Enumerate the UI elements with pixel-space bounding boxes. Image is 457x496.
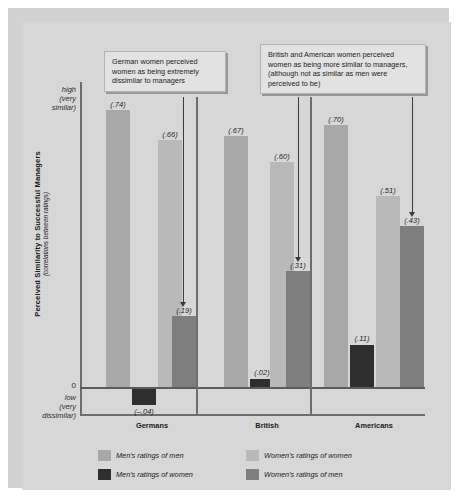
bar-label-americans-mens-ratings-of-men: (.70) bbox=[318, 115, 354, 124]
bar-americans-mens-ratings-of-men bbox=[324, 125, 348, 387]
x-axis-category-germans: Germans bbox=[112, 421, 192, 430]
annotation-callout-german-women: German women perceived women as being ex… bbox=[104, 51, 226, 92]
legend-swatch-mens-ratings-of-men bbox=[98, 450, 111, 461]
annotation-arrow-line-1 bbox=[183, 97, 184, 303]
bar-label-americans-mens-ratings-of-women: (.11) bbox=[344, 334, 380, 343]
annotation-callout-british-american-women: British and American women perceived wom… bbox=[260, 44, 426, 94]
bar-label-americans-womens-ratings-of-men: (.43) bbox=[394, 216, 430, 225]
legend-item-womens-ratings-of-women: Women's ratings of women bbox=[246, 450, 352, 461]
bar-label-british-womens-ratings-of-men: (.31) bbox=[280, 261, 316, 270]
y-axis-high-label: high (very similar) bbox=[38, 85, 76, 112]
bar-germans-mens-ratings-of-women bbox=[132, 389, 156, 405]
bar-germans-mens-ratings-of-men bbox=[106, 110, 130, 387]
bar-label-british-mens-ratings-of-men: (.67) bbox=[218, 126, 254, 135]
y-axis-low-label: low (very dissimilar) bbox=[28, 393, 76, 420]
group-separator-1 bbox=[196, 97, 198, 414]
legend-item-womens-ratings-of-men: Women's ratings of men bbox=[246, 469, 342, 480]
bar-americans-womens-ratings-of-men bbox=[400, 226, 424, 387]
chart-panel: high (very similar) 0 low (very dissimil… bbox=[22, 22, 451, 490]
chart-figure: high (very similar) 0 low (very dissimil… bbox=[0, 0, 457, 496]
figure-plate: high (very similar) 0 low (very dissimil… bbox=[8, 8, 449, 488]
bar-americans-mens-ratings-of-women bbox=[350, 345, 374, 387]
y-axis-high-line3: similar) bbox=[38, 103, 76, 112]
annotation-arrow-head-1 bbox=[180, 302, 186, 307]
annotation-arrow-head-2a bbox=[295, 257, 301, 262]
legend-item-mens-ratings-of-women: Men's ratings of women bbox=[98, 469, 193, 480]
y-axis-low-line2: (very bbox=[28, 402, 76, 411]
chart-legend: Men's ratings of men Men's ratings of wo… bbox=[98, 448, 418, 490]
bar-germans-womens-ratings-of-men bbox=[172, 316, 196, 387]
y-axis-high-line1: high bbox=[38, 85, 76, 94]
x-axis-category-americans: Americans bbox=[334, 421, 414, 430]
bar-british-mens-ratings-of-men bbox=[224, 136, 248, 387]
bar-label-germans-mens-ratings-of-women: (–.04) bbox=[126, 407, 162, 416]
legend-label-mens-ratings-of-women: Men's ratings of women bbox=[116, 470, 193, 479]
y-axis-title: Perceived Similarity to Successful Manag… bbox=[33, 149, 42, 319]
legend-swatch-mens-ratings-of-women bbox=[98, 469, 111, 480]
y-axis-line bbox=[80, 82, 82, 416]
bar-british-womens-ratings-of-men bbox=[286, 271, 310, 387]
bar-label-americans-womens-ratings-of-women: (.51) bbox=[370, 186, 406, 195]
y-axis-title-group: Perceived Similarity to Successful Manag… bbox=[33, 149, 57, 319]
bar-label-germans-mens-ratings-of-men: (.74) bbox=[100, 100, 136, 109]
legend-swatch-womens-ratings-of-men bbox=[246, 469, 259, 480]
legend-item-mens-ratings-of-men: Men's ratings of men bbox=[98, 450, 184, 461]
bar-label-british-womens-ratings-of-women: (.60) bbox=[264, 152, 300, 161]
y-axis-low-line3: dissimilar) bbox=[28, 411, 76, 420]
legend-swatch-womens-ratings-of-women bbox=[246, 450, 259, 461]
legend-label-womens-ratings-of-women: Women's ratings of women bbox=[264, 451, 352, 460]
annotation-arrow-line-2b bbox=[412, 97, 413, 213]
y-axis-high-line2: (very bbox=[38, 94, 76, 103]
legend-label-womens-ratings-of-men: Women's ratings of men bbox=[264, 470, 342, 479]
y-axis-low-line1: low bbox=[28, 393, 76, 402]
y-axis-tick-zero: 0 bbox=[62, 381, 76, 390]
legend-label-mens-ratings-of-men: Men's ratings of men bbox=[116, 451, 184, 460]
x-axis-category-british: British bbox=[227, 421, 307, 430]
annotation-arrow-head-2b bbox=[409, 212, 415, 217]
annotation-arrow-line-2a bbox=[298, 97, 299, 258]
group-separator-2 bbox=[310, 97, 312, 414]
y-axis-subtitle: (correlations between ratings) bbox=[42, 149, 50, 319]
bar-label-germans-womens-ratings-of-men: (.19) bbox=[166, 306, 202, 315]
